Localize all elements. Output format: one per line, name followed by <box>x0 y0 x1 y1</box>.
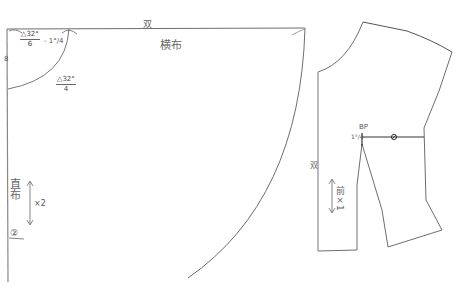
skirt-fold-label: 双 <box>143 20 152 29</box>
bodice-bust-point-label: BP <box>359 124 368 131</box>
bodice-shoulder <box>363 22 452 52</box>
bodice-hem-left <box>318 250 357 251</box>
waist-arc-denominator: 4 <box>56 85 76 93</box>
piece-marker-underline <box>9 238 24 239</box>
bodice-hem-right <box>388 230 442 247</box>
bodice-dart-left-leg <box>357 144 362 250</box>
bodice-neckline <box>318 22 363 72</box>
waist-front-numerator: △32° <box>20 31 40 40</box>
skirt-straight-grain-label: 直布 <box>9 178 20 200</box>
bodice-side-seam <box>424 128 442 230</box>
skirt-top-fold-line <box>7 28 305 29</box>
bodice-fold-label: 双 <box>310 162 318 170</box>
bodice-dart-offset-label: 1°/4 <box>351 134 364 140</box>
skirt-piece-marker: ② <box>10 229 18 238</box>
bodice-dart-right-leg <box>362 144 388 247</box>
bodice-piece-label: 前×1 <box>335 186 344 211</box>
bodice-armhole <box>424 52 452 128</box>
skirt-hem-arc <box>188 28 305 278</box>
pattern-canvas: 双 横布 △32° 6 - 1°/4 △32° 4 8 直布 ×2 ② BP 1… <box>0 0 469 296</box>
waist-arc-numerator: △32° <box>56 76 76 85</box>
waist-tick-right <box>62 30 77 34</box>
skirt-grain-label: 横布 <box>160 40 182 51</box>
waist-front-suffix: - 1°/4 <box>44 38 64 45</box>
hem-corner-mark <box>292 29 305 35</box>
skirt-left-edge <box>7 29 8 282</box>
waist-front-formula: △32° 6 <box>20 31 40 48</box>
skirt-left-edge-mark: 8 <box>4 56 8 63</box>
waist-arc-formula: △32° 4 <box>56 76 76 93</box>
waist-front-denominator: 6 <box>20 40 40 48</box>
pattern-drawing <box>0 0 469 296</box>
skirt-cut-count: ×2 <box>34 200 46 208</box>
